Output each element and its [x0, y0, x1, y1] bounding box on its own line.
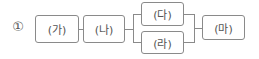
node-ra: (라)	[141, 31, 184, 54]
connector-na-branch	[125, 29, 133, 30]
connector-da-merge	[184, 14, 194, 15]
connector-ra-merge	[184, 42, 194, 43]
connector-branch-da	[133, 14, 141, 15]
option-number: ①	[11, 20, 25, 34]
node-da: (다)	[141, 2, 184, 26]
branch-split-vertical	[133, 14, 134, 43]
connector-branch-ra	[133, 42, 141, 43]
node-na: (나)	[83, 15, 125, 43]
node-ma: (마)	[202, 15, 245, 40]
node-ga: (가)	[35, 15, 79, 43]
connector-merge-ma	[194, 28, 202, 29]
